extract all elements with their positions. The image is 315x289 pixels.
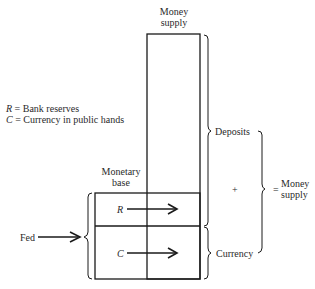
equals-sign: = xyxy=(273,184,279,195)
currency-box-label: C xyxy=(117,248,124,259)
fed-label: Fed xyxy=(20,232,35,243)
money-supply-title-line2: supply xyxy=(152,17,196,28)
result-line2: supply xyxy=(281,189,309,200)
sum-brace-icon xyxy=(258,131,265,253)
deposits-label: Deposits xyxy=(215,126,250,137)
currency-label: Currency xyxy=(216,248,253,259)
money-supply-title: Money supply xyxy=(152,6,196,28)
monetary-base-line1: Monetary xyxy=(99,166,143,177)
result-money-supply: Money supply xyxy=(281,178,309,200)
plus-sign: + xyxy=(232,184,238,195)
money-supply-title-line1: Money xyxy=(152,6,196,17)
monetary-base-line2: base xyxy=(99,177,143,188)
legend-reserves: R = Bank reserves xyxy=(6,103,79,114)
legend-c-text: = Currency in public hands xyxy=(13,114,124,125)
legend-r-text: = Bank reserves xyxy=(12,103,79,114)
currency-arrow-icon xyxy=(127,248,177,258)
legend-currency: C = Currency in public hands xyxy=(6,114,124,125)
fed-arrow-icon xyxy=(38,232,80,242)
monetary-base-brace-icon xyxy=(84,193,92,279)
deposits-brace-icon xyxy=(204,35,211,226)
monetary-base-label: Monetary base xyxy=(99,166,143,188)
result-line1: Money xyxy=(281,178,309,189)
reserves-box-label: R xyxy=(117,204,123,215)
money-supply-diagram-graphics xyxy=(0,0,315,289)
currency-brace-icon xyxy=(204,227,211,279)
money-supply-column xyxy=(147,34,200,279)
reserves-arrow-icon xyxy=(127,204,177,214)
legend-c-symbol: C xyxy=(6,114,13,125)
